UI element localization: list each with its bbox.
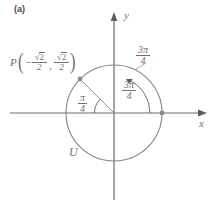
figure-panel: (a) P ( − √2 (0, 0, 218, 203)
circle-name-label: U (69, 146, 78, 158)
point-p-label: P ( − √2 2 , √2 2 ) (10, 52, 77, 72)
open-paren: ( (18, 54, 24, 71)
angle-reference-denominator: 4 (78, 103, 87, 114)
angle-reference-label: π 4 (78, 93, 87, 114)
coord-y-denominator: 2 (54, 62, 69, 72)
angle-inner-label: 3π 4 (122, 80, 136, 101)
angle-outer-numerator: 3π (136, 45, 150, 55)
point-p-marker (78, 77, 83, 82)
angle-outer-label: 3π 4 (136, 45, 150, 66)
angle-reference-numerator: π (78, 93, 87, 103)
angle-arc-pi-over-4 (94, 99, 100, 113)
x-axis-label: x (199, 118, 204, 129)
angle-inner-fraction: 3π 4 (122, 80, 136, 101)
y-axis-label: y (124, 10, 129, 21)
coord-y-fraction: √2 2 (54, 52, 69, 72)
angle-inner-denominator: 4 (122, 90, 136, 101)
angle-outer-fraction: 3π 4 (136, 45, 150, 66)
coord-x-denominator: 2 (32, 62, 47, 72)
coord-comma: , (47, 60, 54, 71)
angle-inner-numerator: 3π (122, 80, 136, 90)
minus-sign: − (24, 57, 31, 68)
angle-outer-denominator: 4 (136, 55, 150, 66)
radicand-y: 2 (61, 52, 68, 62)
point-p-name: P (10, 57, 17, 68)
unit-circle-diagram (0, 0, 218, 203)
x-axis (10, 110, 207, 117)
coord-x-numerator: √2 (32, 52, 47, 62)
point-x-intercept-marker (160, 111, 165, 116)
y-axis (111, 12, 118, 200)
close-paren: ) (70, 54, 76, 71)
coord-x-fraction: √2 2 (32, 52, 47, 72)
angle-reference-fraction: π 4 (78, 93, 87, 114)
radicand-x: 2 (39, 52, 46, 62)
coord-y-numerator: √2 (54, 52, 69, 62)
